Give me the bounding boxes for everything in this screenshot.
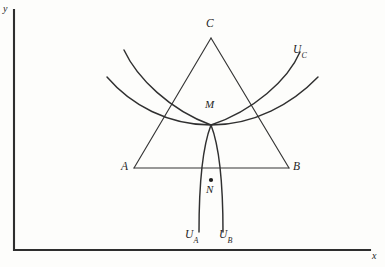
curve-label-uc-subscript: C bbox=[302, 51, 307, 60]
curve-label-uc: UC bbox=[293, 44, 307, 58]
curve-label-ub-base: U bbox=[219, 228, 227, 240]
curve-label-uc-base: U bbox=[293, 43, 301, 55]
point-marker-n bbox=[209, 178, 213, 182]
triangle-edge-cb bbox=[211, 38, 289, 168]
diagram-vector-layer bbox=[0, 0, 385, 267]
curve-label-ub-subscript: B bbox=[228, 236, 233, 245]
curve-label-ua: UA bbox=[185, 229, 198, 243]
curve-label-ua-base: U bbox=[185, 228, 193, 240]
vertex-label-b: B bbox=[293, 161, 300, 173]
y-axis-label: y bbox=[3, 4, 7, 14]
curve-ub bbox=[199, 52, 300, 232]
curve-label-ua-subscript: A bbox=[194, 236, 199, 245]
coordinate-axes bbox=[14, 10, 370, 250]
curve-ua bbox=[124, 50, 223, 232]
diagram-canvas: y x A B C M N UA UB UC bbox=[0, 0, 385, 267]
point-label-n: N bbox=[206, 184, 213, 195]
vertex-label-a: A bbox=[121, 161, 128, 173]
vertex-label-c: C bbox=[206, 18, 214, 30]
x-axis-label: x bbox=[372, 251, 376, 261]
triangle-edge-ac bbox=[134, 38, 211, 168]
point-label-m: M bbox=[205, 99, 214, 110]
curve-label-ub: UB bbox=[219, 229, 232, 243]
